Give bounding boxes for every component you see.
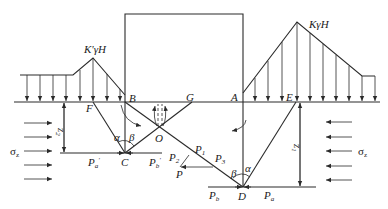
label-E: E: [285, 91, 293, 103]
z1-label: z1: [290, 143, 304, 152]
beta-left: β: [128, 131, 135, 143]
label-O: O: [155, 132, 163, 144]
label-P3: P3: [214, 152, 226, 166]
label-P: P: [175, 168, 183, 180]
rotation-arrow-left: [121, 105, 141, 126]
label-Pa: Pa: [263, 189, 275, 203]
z2-label: z2: [54, 127, 68, 136]
label-P2: P2: [168, 151, 180, 165]
label-A: A: [230, 91, 238, 103]
right-stress-arrows: [326, 122, 352, 180]
sigma-z-left: σz: [10, 145, 19, 159]
alpha-left: α: [114, 131, 120, 143]
label-G: G: [186, 91, 194, 103]
label-Pb: Pb: [208, 189, 220, 203]
building-block: [125, 14, 243, 102]
foundation-failure-diagram: K'γH KγH: [0, 0, 388, 209]
label-D: D: [237, 190, 246, 202]
label-P1: P1: [194, 143, 205, 157]
rotation-arrow-right: [232, 120, 246, 131]
label-Pa-prime: Pa′: [87, 156, 100, 170]
label-B: B: [129, 92, 136, 104]
left-stress-arrows: [24, 123, 52, 179]
uplift-arrows: [154, 104, 165, 126]
force-p-construction: [180, 155, 213, 167]
failure-surfaces: [60, 102, 316, 187]
label-C: C: [121, 156, 129, 168]
left-peak-label: K'γH: [83, 43, 107, 55]
sigma-z-right: σz: [358, 145, 367, 159]
right-peak-label: KγH: [308, 18, 330, 30]
label-Pb-prime: Pb′: [148, 156, 161, 170]
beta-right: β: [230, 167, 237, 179]
right-load-diagram: [243, 22, 375, 101]
alpha-right: α: [245, 162, 251, 174]
label-F: F: [85, 102, 93, 114]
left-load-diagram: [20, 58, 125, 101]
